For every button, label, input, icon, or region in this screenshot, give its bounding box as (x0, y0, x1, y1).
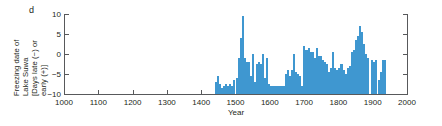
y-tick-left (65, 54, 69, 55)
x-tick-label: 1900 (364, 98, 382, 107)
figure-panel-d: d Freezing date of Lake Suwa [Days late … (0, 0, 442, 126)
x-tick-label: 1000 (55, 98, 73, 107)
y-axis-label: Freezing date of Lake Suwa [Days late (−… (0, 0, 56, 126)
bar (384, 60, 386, 94)
x-axis (64, 94, 408, 95)
y-tick-right (403, 34, 407, 35)
y-axis-label-line-3: [Days late (−) or (30, 40, 39, 96)
x-tick-label: 1400 (192, 98, 210, 107)
x-tick (201, 90, 202, 94)
x-tick-label: 1600 (261, 98, 279, 107)
x-tick-label: 1700 (295, 98, 313, 107)
y-tick-label: 5 (57, 30, 61, 39)
x-tick (64, 90, 65, 94)
bar (367, 58, 369, 94)
x-tick-label: 1500 (227, 98, 245, 107)
x-tick (167, 90, 168, 94)
y-tick-label: 10 (52, 10, 61, 19)
x-tick (133, 90, 134, 94)
y-tick-left (65, 94, 69, 95)
x-tick (98, 90, 99, 94)
y-tick-right (403, 54, 407, 55)
x-tick-label: 1100 (90, 98, 107, 107)
y-axis-label-line-1: Freezing date of (12, 40, 21, 96)
x-tick-label: 2000 (398, 98, 416, 107)
x-tick-label: 1200 (124, 98, 142, 107)
y-tick-label: −5 (52, 70, 61, 79)
x-tick-label: 1300 (158, 98, 176, 107)
y-tick-right (403, 94, 407, 95)
x-tick-label: 1800 (329, 98, 347, 107)
y-tick-right (403, 14, 407, 15)
x-tick (407, 90, 408, 94)
plot-area: −10−50510 100011001200130014001500160017… (64, 14, 408, 95)
y-tick-left (65, 34, 69, 35)
y-tick-label: 0 (57, 50, 61, 59)
y-axis-label-line-2: Lake Suwa (21, 58, 30, 96)
y-axis-right (407, 14, 408, 95)
y-tick-right (403, 74, 407, 75)
y-tick-left (65, 14, 69, 15)
x-axis-label: Year (64, 108, 408, 117)
y-tick-left (65, 74, 69, 75)
